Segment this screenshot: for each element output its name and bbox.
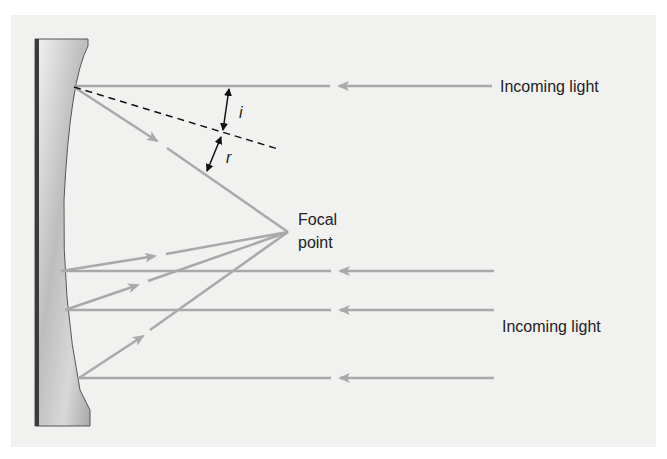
focal-point-label-line2: point: [298, 234, 333, 251]
mirror-back-coating: [35, 39, 39, 426]
angle-r-label: r: [226, 149, 232, 166]
angle-i-label: i: [239, 104, 243, 121]
incoming-light-label-top: Incoming light: [500, 78, 599, 95]
concave-mirror-diagram: i r Focal point Incoming light Incoming …: [0, 0, 667, 459]
incoming-light-label-bottom: Incoming light: [502, 318, 601, 335]
focal-point-label-line1: Focal: [298, 211, 337, 228]
